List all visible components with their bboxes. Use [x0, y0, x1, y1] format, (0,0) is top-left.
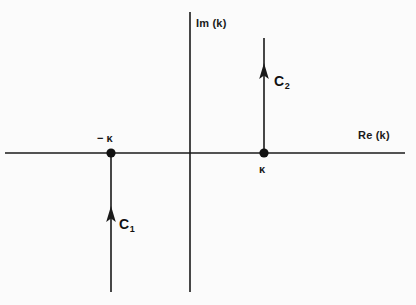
contour-c2-label-base: C	[274, 73, 284, 89]
pole-positive-kappa-marker	[259, 148, 268, 157]
contour-c1-label-subscript: 1	[130, 224, 135, 234]
complex-plane-diagram: Im (k) Re (k) − κ κ C1 C2	[0, 0, 416, 305]
contour-c2-label: C2	[274, 73, 289, 89]
contour-c1-label-base: C	[119, 216, 129, 232]
contour-c2-label-subscript: 2	[285, 81, 290, 91]
contour-c1-label: C1	[119, 216, 134, 232]
imaginary-axis-label: Im (k)	[196, 17, 227, 29]
real-axis-label: Re (k)	[358, 129, 390, 141]
pole-negative-kappa-marker	[106, 148, 115, 157]
pole-positive-kappa-label: κ	[259, 163, 265, 175]
pole-negative-kappa-label: − κ	[97, 132, 113, 144]
diagram-canvas	[0, 0, 416, 305]
